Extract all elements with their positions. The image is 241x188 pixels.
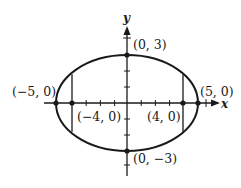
point-left-focus — [69, 100, 74, 105]
ellipse-diagram: y x (0, 3) (0, −3) (−5, 0) (5, 0) (−4, 0… — [0, 0, 241, 188]
x-axis-arrow-icon — [211, 100, 220, 107]
point-left-vertex — [53, 100, 58, 105]
label-right-focus: (4, 0) — [147, 109, 181, 124]
label-bottom-vertex: (0, −3) — [133, 151, 177, 166]
point-top-vertex — [124, 52, 129, 57]
y-axis-label: y — [122, 11, 131, 25]
x-axis-label: x — [220, 97, 229, 111]
point-bottom-vertex — [124, 148, 129, 153]
point-right-focus — [180, 100, 185, 105]
y-axis-arrow-icon — [124, 26, 131, 35]
point-right-vertex — [195, 100, 200, 105]
label-right-vertex: (5, 0) — [200, 84, 234, 99]
label-left-vertex: (−5, 0) — [12, 84, 56, 99]
label-left-focus: (−4, 0) — [77, 109, 121, 124]
label-top-vertex: (0, 3) — [133, 37, 167, 52]
